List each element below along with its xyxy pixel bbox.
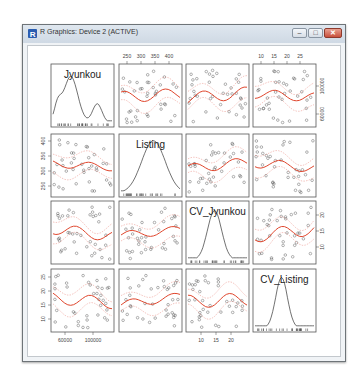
graphics-canvas: JyunkouListingCV_JyunkouCV_Listing250300… [27, 45, 341, 357]
left-axis-tick: 400 [40, 137, 46, 146]
variable-label: CV_Listing [260, 274, 308, 285]
right-axis-tick: 60000 [319, 107, 325, 121]
maximize-icon: □ [309, 29, 322, 37]
left-axis-tick: 250 [40, 182, 46, 191]
scatter-panel-r1c3 [186, 64, 249, 127]
scatter-panel-r2c1 [51, 134, 114, 197]
scatter-panel-r3c2 [119, 201, 182, 264]
variable-label: CV_Jyunkou [189, 206, 246, 217]
top-axis-tick: 400 [165, 53, 174, 59]
density-panel-jyunkou: Jyunkou [51, 64, 114, 127]
scatterplot-matrix: JyunkouListingCV_JyunkouCV_Listing250300… [28, 46, 342, 358]
top-axis-tick: 350 [151, 53, 160, 59]
right-axis-tick: 15 [319, 228, 325, 234]
left-axis-tick: 20 [40, 288, 46, 294]
scatter-panel-r3c4 [253, 201, 316, 264]
scatter-panel-r1c4 [253, 64, 316, 127]
minimize-icon: – [293, 29, 306, 37]
close-icon: ✕ [325, 29, 341, 37]
svg-text:R: R [30, 30, 36, 38]
left-axis-tick: 300 [40, 167, 46, 176]
top-axis-tick: 20 [284, 53, 290, 59]
top-axis-tick: 300 [137, 53, 146, 59]
bottom-axis-tick: 20 [228, 337, 234, 343]
top-axis-tick: 250 [123, 53, 132, 59]
minimize-button[interactable]: – [292, 28, 307, 38]
maximize-button[interactable]: □ [308, 28, 323, 38]
scatter-panel-r1c2 [119, 64, 182, 127]
left-axis-tick: 25 [40, 274, 46, 280]
scatter-panel-r4c3 [186, 269, 249, 332]
scatter-panel-r3c1 [51, 201, 114, 264]
r-logo-icon: R [28, 29, 37, 38]
bottom-axis-tick: 10 [198, 337, 204, 343]
variable-label: Listing [136, 139, 165, 150]
top-axis-tick: 15 [271, 53, 277, 59]
scatter-panel-r4c1 [51, 269, 114, 332]
left-axis-tick: 350 [40, 152, 46, 161]
right-axis-tick: 10 [319, 244, 325, 250]
top-axis-tick: 10 [258, 53, 264, 59]
density-panel-listing: Listing [119, 134, 182, 197]
scatter-panel-r2c3 [186, 134, 249, 197]
bottom-axis-tick: 100000 [85, 337, 102, 343]
bottom-axis-tick: 15 [213, 337, 219, 343]
close-button[interactable]: ✕ [324, 28, 342, 38]
r-graphics-window: R R Graphics: Device 2 (ACTIVE) – □ ✕ Jy… [22, 24, 346, 362]
right-axis-tick: 20 [319, 212, 325, 218]
title-bar[interactable]: R R Graphics: Device 2 (ACTIVE) – □ ✕ [23, 25, 345, 43]
top-axis-tick: 25 [297, 53, 303, 59]
bottom-axis-tick: 60000 [58, 337, 72, 343]
right-axis-tick: 100000 [319, 77, 325, 94]
window-title: R Graphics: Device 2 (ACTIVE) [40, 28, 138, 35]
variable-label: Jyunkou [64, 69, 101, 80]
left-axis-tick: 10 [40, 316, 46, 322]
density-panel-cv-jyunkou: CV_Jyunkou [186, 201, 249, 264]
scatter-panel-r4c2 [119, 269, 182, 332]
left-axis-tick: 15 [40, 302, 46, 308]
density-panel-cv-listing: CV_Listing [253, 269, 316, 332]
scatter-panel-r2c4 [253, 134, 316, 197]
